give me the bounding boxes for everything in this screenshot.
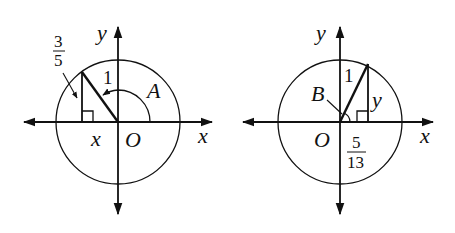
right-angle-mark <box>357 111 368 122</box>
vertical-leg-label: y <box>370 87 382 112</box>
fraction-numerator: 5 <box>352 133 361 152</box>
fraction-denominator: 5 <box>54 51 63 70</box>
y-axis-label: y <box>314 20 326 45</box>
angle-label-A: A <box>145 78 161 103</box>
right-figure: y x O B 1 y 5 13 <box>243 20 433 214</box>
hypotenuse-label: 1 <box>344 65 354 86</box>
unit-circle-diagrams: y x O A 1 x 3 5 y x O B 1 y 5 13 <box>0 0 455 233</box>
hypotenuse <box>82 72 118 122</box>
fraction-numerator: 3 <box>54 32 63 51</box>
origin-label: O <box>125 127 141 152</box>
origin-label: O <box>314 127 330 152</box>
angle-arc-A <box>103 90 150 122</box>
angle-label-B: B <box>311 81 324 106</box>
fraction-denominator: 13 <box>347 153 364 172</box>
x-axis-label: x <box>197 123 208 148</box>
left-figure: y x O A 1 x 3 5 <box>24 20 212 214</box>
y-axis-label: y <box>95 20 107 45</box>
x-axis-label: x <box>419 123 430 148</box>
horizontal-leg-label: x <box>90 126 101 151</box>
hypotenuse-label: 1 <box>103 67 113 88</box>
right-angle-mark <box>82 111 93 122</box>
